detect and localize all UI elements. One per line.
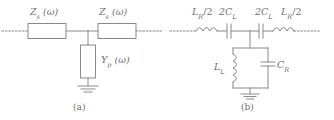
label-shunt-admittance: Yp (ω) [101,55,130,65]
caption-panel-a: (a) [73,102,85,112]
ground-icon-a [78,86,98,92]
ground-icon-b [241,94,259,99]
series-impedance-box-right [98,24,136,39]
series-impedance-box-left [28,24,66,39]
series-inductor-left-icon [196,28,217,32]
label-shunt-inductor: LL [214,62,225,72]
shunt-admittance-box [81,45,96,78]
label-shunt-capacitor: CR [277,60,289,70]
label-series-capacitor-left: 2CL [219,7,237,17]
label-series-inductor-right: LR/2 [281,7,301,17]
shunt-capacitor-icon [261,62,275,66]
label-series-inductor-left: LR/2 [192,7,212,17]
series-inductor-right-icon [273,28,294,32]
label-series-impedance-right: Zs (ω) [99,7,127,17]
caption-panel-b: (b) [241,102,254,112]
figure-crlh-unit-cell: Zs (ω) Zs (ω) Yp (ω) (a) LR/2 2CL 2CL LR… [0,0,334,120]
series-capacitor-right-icon [259,24,263,38]
label-series-impedance-left: Zs (ω) [30,7,58,17]
shunt-inductor-icon [233,54,237,82]
series-capacitor-left-icon [227,24,231,38]
label-series-capacitor-right: 2CL [255,7,273,17]
